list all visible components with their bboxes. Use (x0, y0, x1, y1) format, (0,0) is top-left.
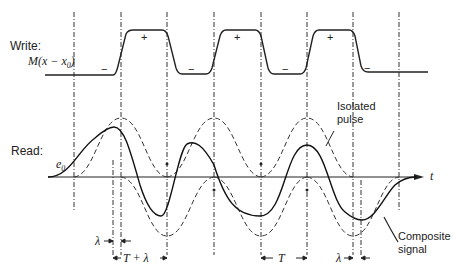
sign-3: + (234, 31, 240, 43)
write-label: Write: (10, 40, 41, 52)
diagram-graphics (0, 0, 454, 273)
isolated-pulse-label-2: pulse (337, 113, 363, 125)
t-plus-lambda-label: T + λ (123, 252, 149, 264)
composite-signal-label-1: Composite (398, 230, 451, 242)
t-axis-label: t (430, 170, 433, 182)
sign-1: + (141, 31, 147, 43)
sign-6: − (364, 62, 370, 74)
composite-signal (48, 127, 416, 220)
sign-4: − (282, 63, 288, 75)
composite-signal-label-2: signal (398, 243, 427, 255)
lambda-label-1: λ (95, 235, 100, 247)
t-period-label: T (278, 252, 285, 264)
sign-0: − (101, 63, 107, 75)
diagram: Write: M(x − x0) − + − + − + − Read: e0 … (0, 0, 454, 273)
write-function-label: M(x − x0) (28, 55, 75, 72)
write-fn-close: ) (71, 54, 75, 68)
isolated-pulse-label-1: Isolated (337, 100, 376, 112)
e0-label: e0 (56, 158, 65, 175)
read-label: Read: (11, 145, 43, 157)
sign-5: + (327, 31, 333, 43)
write-fn-text: M(x − x (28, 54, 67, 68)
lambda-label-2: λ (336, 252, 341, 264)
e0-sub: 0 (61, 164, 65, 173)
sign-2: − (188, 63, 194, 75)
